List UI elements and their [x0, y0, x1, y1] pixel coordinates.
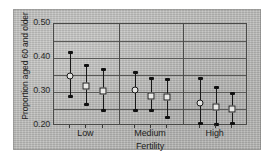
gridline: [54, 41, 246, 42]
x-axis-category-label: Low: [53, 128, 118, 138]
error-bar-cap: [84, 103, 89, 106]
error-bar-cap: [230, 92, 235, 95]
error-bar-cap: [149, 109, 154, 112]
panel-divider: [119, 24, 120, 124]
y-axis-tick-label: 0.50: [33, 18, 50, 27]
plot-area: [53, 23, 247, 125]
error-bar-cap: [101, 68, 106, 71]
x-axis-category-label: High: [182, 128, 247, 138]
y-axis-tick-label: 0.30: [33, 86, 50, 95]
data-point-marker: [196, 99, 203, 106]
data-point-marker: [148, 93, 155, 100]
error-bar-cap: [214, 86, 219, 89]
data-point-marker: [228, 106, 235, 113]
error-bar-cap: [133, 71, 138, 74]
x-axis-category-label: Medium: [118, 128, 183, 138]
error-bar-cap: [68, 95, 73, 98]
data-point-marker: [67, 72, 74, 79]
y-axis-tick-label: 0.20: [33, 120, 50, 129]
error-bar-cap: [149, 77, 154, 80]
data-point-marker: [212, 104, 219, 111]
error-bar-cap: [84, 64, 89, 67]
error-bar-cap: [198, 77, 203, 80]
error-bar-cap: [165, 78, 170, 81]
error-bar-cap: [165, 116, 170, 119]
data-point-marker: [164, 94, 171, 101]
y-axis-tick-labels: 0.200.300.400.50: [28, 0, 50, 163]
gridline: [54, 58, 246, 59]
y-axis-tick-label: 0.40: [33, 52, 50, 61]
panel-divider: [183, 24, 184, 124]
error-bar-cap: [133, 109, 138, 112]
x-axis-title: Fertility: [53, 141, 247, 151]
error-bar-cap: [101, 109, 106, 112]
data-point-marker: [131, 87, 138, 94]
data-point-marker: [99, 88, 106, 95]
error-bar-cap: [68, 51, 73, 54]
data-point-marker: [83, 83, 90, 90]
figure-canvas: Proportion aged 60 and older 0.200.300.4…: [0, 0, 276, 163]
